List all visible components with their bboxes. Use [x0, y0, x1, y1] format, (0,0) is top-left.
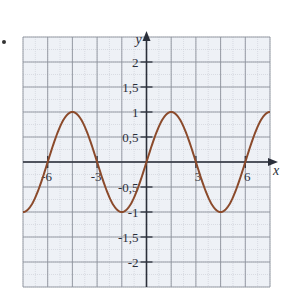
- y-tick-label: -1,5: [118, 230, 139, 245]
- y-tick-label: 1,5: [122, 80, 138, 95]
- function-graph: xy21,510,5-0,5-1-1,5-2-6-336: [0, 0, 288, 308]
- y-axis-label: y: [134, 32, 143, 47]
- y-axis-arrow-icon: [143, 31, 151, 41]
- y-tick-label: 2: [132, 55, 139, 70]
- x-tick-label: 6: [244, 169, 251, 184]
- y-tick-label: 1: [132, 105, 139, 120]
- y-tick-label: -2: [128, 255, 139, 270]
- y-tick-label: 0,5: [122, 130, 138, 145]
- x-axis-label: x: [272, 163, 280, 178]
